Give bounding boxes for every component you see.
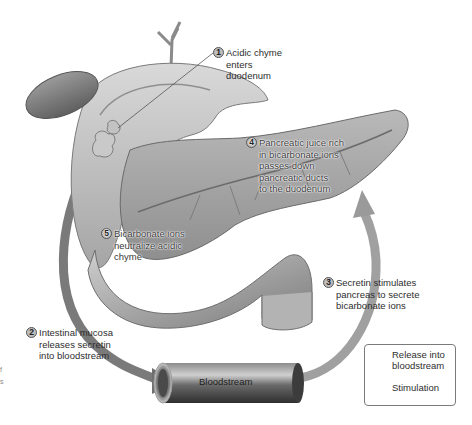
step-1-line-1: Acidic chyme — [226, 47, 282, 58]
step-3-label: 3 Secretin stimulates pancreas to secret… — [323, 277, 419, 312]
legend-box: Release into bloodstream Stimulation — [364, 344, 456, 406]
legend-item-stimulation: Stimulation — [392, 382, 439, 393]
step-2-line-2: releases secretin — [39, 339, 111, 350]
step-5-line-1: Bicarbonate ions — [114, 228, 185, 239]
step-3-line-1: Secretin stimulates — [336, 277, 416, 288]
step-1-label: 1 Acidic chyme enters duodenum — [213, 47, 282, 82]
step-2-number: 2 — [26, 327, 37, 338]
step-4-label: 4 Pancreatic juice rich in bicarbonate i… — [246, 137, 344, 195]
legend-release-label: Release into bloodstream — [392, 349, 445, 371]
cropped-text-fragment-2: s — [0, 378, 4, 385]
bloodstream-label: Bloodstream — [199, 376, 252, 387]
step-1-line-3: duodenum — [226, 70, 271, 81]
legend-stimulation-label: Stimulation — [392, 382, 439, 393]
step-5-line-2: neutralize acidic — [114, 240, 182, 251]
step-4-line-4: pancreatic ducts — [259, 172, 328, 183]
legend-release-line-1: Release into — [392, 349, 445, 360]
step-2-line-3: into bloodstream — [39, 350, 109, 361]
step-4-number: 4 — [246, 137, 257, 148]
step-3-number: 3 — [323, 277, 334, 288]
legend-item-release: Release into bloodstream — [392, 349, 445, 371]
stimulation-arrowhead-icon — [353, 190, 375, 218]
step-1-line-2: enters — [226, 59, 252, 70]
step-3-line-3: bicarbonate ions — [336, 300, 406, 311]
step-5-number: 5 — [101, 228, 112, 239]
step-4-line-5: to the duodenum — [259, 183, 330, 194]
step-3-line-2: pancreas to secrete — [336, 289, 419, 300]
step-4-line-2: in bicarbonate ions — [259, 149, 339, 160]
step-5-label: 5 Bicarbonate ions neutralize acidic chy… — [101, 228, 185, 263]
step-4-line-1: Pancreatic juice rich — [259, 137, 344, 148]
step-2-label: 2 Intestinal mucosa releases secretin in… — [26, 327, 113, 362]
step-4-line-3: passes down — [259, 160, 314, 171]
legend-release-line-2: bloodstream — [392, 360, 444, 371]
step-1-number: 1 — [213, 47, 224, 58]
cropped-text-fragment-1: f — [0, 366, 2, 373]
step-2-line-1: Intestinal mucosa — [39, 327, 113, 338]
step-5-line-3: chyme — [114, 251, 142, 262]
